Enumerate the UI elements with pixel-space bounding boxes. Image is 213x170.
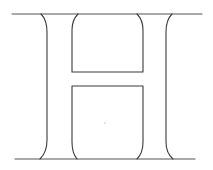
right-stem-outer-edge bbox=[166, 14, 173, 159]
center-mark bbox=[104, 122, 106, 124]
upper-counter bbox=[72, 14, 143, 72]
left-stem-outer-edge bbox=[40, 14, 47, 159]
lower-counter bbox=[72, 86, 143, 159]
letter-h-diagram bbox=[0, 0, 213, 170]
